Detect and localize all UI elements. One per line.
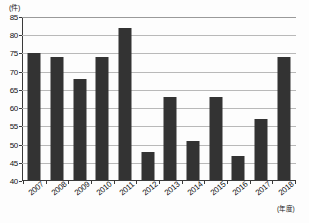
y-axis-tick	[19, 126, 22, 127]
bar	[164, 97, 177, 180]
bar-slot	[227, 17, 250, 180]
bar	[73, 79, 86, 180]
bar	[209, 97, 222, 180]
bar-slot	[23, 17, 46, 180]
bar	[141, 152, 154, 180]
y-axis-tick-label: 45	[10, 158, 18, 167]
x-axis-tick	[68, 181, 69, 184]
y-axis-tick	[19, 108, 22, 109]
y-axis-tick	[19, 53, 22, 54]
y-axis-tick-label: 70	[10, 67, 18, 76]
bar-slot	[136, 17, 159, 180]
y-axis-unit-label: (件)	[9, 2, 20, 12]
x-axis-tick-label: 2008	[50, 180, 69, 198]
y-axis-tick	[19, 35, 22, 36]
bar	[50, 57, 63, 180]
bar-slot	[182, 17, 205, 180]
x-axis-tick-label: 2009	[72, 180, 91, 198]
x-axis-unit-label: (年度)	[277, 203, 295, 213]
bar	[277, 57, 290, 180]
x-axis-tick	[46, 181, 47, 184]
y-axis-tick-label: 60	[10, 104, 18, 113]
bar-slot	[68, 17, 91, 180]
bar	[96, 57, 109, 180]
y-axis-tick-label: 85	[10, 13, 18, 22]
x-axis-tick	[136, 181, 137, 184]
x-axis-tick	[295, 181, 296, 184]
bar-slot	[46, 17, 69, 180]
bar-slot	[250, 17, 273, 180]
x-axis-tick-label: 2017	[254, 180, 273, 198]
bar-slot	[272, 17, 295, 180]
x-axis-tick-label: 2018	[276, 180, 295, 198]
x-axis-tick-label: 2010	[95, 180, 114, 198]
bar	[186, 141, 199, 180]
y-axis-tick	[19, 17, 22, 18]
x-axis-tick-label: 2014	[186, 180, 205, 198]
x-axis-tick	[250, 181, 251, 184]
plot-area: 85807570656055504540 2007200820092010201…	[22, 17, 296, 181]
bar-slot	[114, 17, 137, 180]
x-axis-tick	[272, 181, 273, 184]
y-axis-tick	[19, 72, 22, 73]
x-axis-tick-label: 2007	[27, 180, 46, 198]
y-axis-tick-label: 40	[10, 177, 18, 186]
y-axis-tick-label: 50	[10, 140, 18, 149]
bar	[28, 53, 41, 180]
x-axis-tick-label: 2013	[163, 180, 182, 198]
x-axis-tick	[23, 181, 24, 184]
y-axis-tick	[19, 145, 22, 146]
chart-screenshot: (件) 85807570656055504540 200720082009201…	[0, 0, 309, 223]
x-axis-tick-label: 2011	[118, 180, 136, 197]
y-axis-tick-label: 65	[10, 85, 18, 94]
y-axis-tick	[19, 163, 22, 164]
bar-slot	[159, 17, 182, 180]
x-axis-tick-label: 2012	[140, 180, 159, 198]
x-axis-tick	[114, 181, 115, 184]
bar	[118, 28, 131, 180]
bars-group	[23, 17, 296, 180]
x-axis-tick-label: 2016	[231, 180, 250, 198]
y-axis-tick-label: 55	[10, 122, 18, 131]
x-axis-tick	[159, 181, 160, 184]
bar-slot	[204, 17, 227, 180]
x-axis-tick-label: 2015	[208, 180, 227, 198]
x-axis-tick	[204, 181, 205, 184]
x-axis-tick	[91, 181, 92, 184]
y-axis-tick-label: 75	[10, 49, 18, 58]
bar-slot	[91, 17, 114, 180]
bar	[232, 156, 245, 181]
y-axis-tick-label: 80	[10, 31, 18, 40]
x-axis-tick	[182, 181, 183, 184]
x-axis-tick	[227, 181, 228, 184]
y-axis-tick	[19, 181, 22, 182]
bar	[254, 119, 267, 180]
y-axis-tick	[19, 90, 22, 91]
